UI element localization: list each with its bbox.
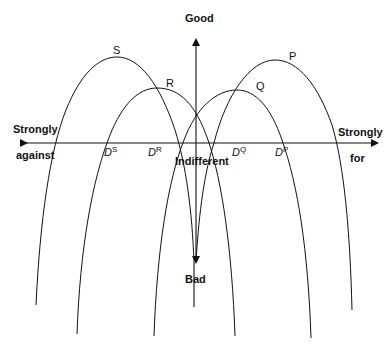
ideal-point-base: D [232, 146, 240, 158]
ideal-point-sup: S [112, 145, 117, 154]
ideal-point-dp: DP [275, 146, 288, 158]
ideal-point-sup: P [283, 145, 288, 154]
curve-label-p: P [289, 51, 296, 62]
ideal-point-dr: DR [148, 146, 162, 158]
preference-curves-diagram [0, 0, 391, 348]
curve-q [154, 90, 311, 338]
ideal-point-base: D [275, 146, 283, 158]
ideal-point-sup: Q [240, 145, 246, 154]
ideal-point-dq: DQ [232, 146, 246, 158]
ideal-point-base: D [148, 146, 156, 158]
indifferent-label: Indifferent [175, 156, 229, 167]
curve-label-s: S [113, 45, 120, 56]
curve-s [36, 57, 194, 305]
ideal-point-base: D [104, 146, 112, 158]
ideal-point-sup: R [156, 145, 162, 154]
bad-label: Bad [185, 274, 206, 285]
strongly-against-label-2: against [16, 150, 55, 161]
strongly-for-label-1: Strongly [338, 127, 383, 138]
ideal-point-ds: DS [104, 146, 117, 158]
strongly-against-label-1: Strongly [13, 124, 58, 135]
strongly-for-label-2: for [350, 153, 365, 164]
good-label: Good [185, 13, 214, 24]
curve-label-r: R [166, 78, 174, 89]
curve-label-q: Q [256, 81, 265, 92]
